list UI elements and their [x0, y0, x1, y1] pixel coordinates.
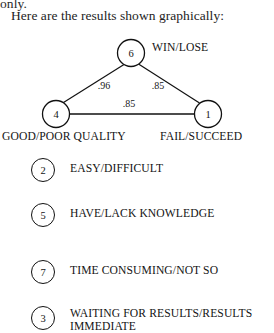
legend-circle-7[interactable]: 7 [31, 260, 55, 284]
legend-label-3-line1: WAITING FOR RESULTS/RESULTS [70, 307, 252, 320]
intro-sentence: Here are the results shown graphically: [11, 8, 224, 24]
legend-label-2-line1: EASY/DIFFICULT [70, 162, 163, 175]
legend-circle-2[interactable]: 2 [31, 158, 55, 182]
edge-6-4 [64, 65, 125, 103]
relationship-graph: 6 4 1 .96 .85 .85 WIN/LOSE GOOD/POOR QUA… [0, 30, 274, 148]
legend-circle-3[interactable]: 3 [31, 306, 55, 330]
legend-label-5: HAVE/LACK KNOWLEDGE [70, 208, 214, 221]
graph-node-4-label: GOOD/POOR QUALITY [2, 130, 126, 143]
edge-weight-4-1: .85 [123, 98, 136, 109]
graph-node-6-number: 6 [128, 48, 133, 59]
graph-node-4-number: 4 [53, 109, 59, 120]
graph-node-6-label: WIN/LOSE [152, 41, 208, 54]
edge-6-1 [139, 64, 200, 103]
graph-node-1-label: FAIL/SUCCEED [160, 130, 242, 143]
legend-label-2: EASY/DIFFICULT [70, 163, 163, 176]
legend-label-3-line2: IMMEDIATE [70, 321, 252, 333]
figure-page: only. Here are the results shown graphic… [0, 0, 274, 333]
graph-node-1-number: 1 [205, 109, 210, 120]
edge-weight-6-1: .85 [152, 80, 165, 91]
legend-label-3: WAITING FOR RESULTS/RESULTS IMMEDIATE [70, 308, 252, 333]
isolated-node-legend: 2 EASY/DIFFICULT 5 HAVE/LACK KNOWLEDGE 7… [0, 148, 274, 333]
legend-label-7-line1: TIME CONSUMING/NOT SO [70, 264, 218, 277]
legend-label-7: TIME CONSUMING/NOT SO [70, 265, 218, 278]
legend-circle-5[interactable]: 5 [31, 203, 55, 227]
edge-weight-6-4: .96 [98, 80, 111, 91]
legend-label-5-line1: HAVE/LACK KNOWLEDGE [70, 207, 214, 220]
